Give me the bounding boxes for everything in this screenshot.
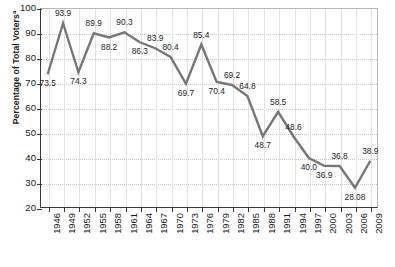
- x-tick-label: 1961: [129, 213, 138, 234]
- data-point-label: 28.08: [344, 193, 365, 201]
- turnout-polyline: [48, 23, 371, 188]
- y-axis-tick-labels: 1009080706050403020: [8, 0, 36, 267]
- data-point-label: 90.3: [116, 18, 132, 26]
- y-tick-mark: [37, 209, 42, 210]
- data-point-label: 85.4: [193, 31, 209, 39]
- y-tick-label: 30: [10, 178, 36, 188]
- x-tick-label: 2009: [374, 213, 383, 234]
- x-tick-label: 1964: [144, 213, 153, 234]
- data-point-label: 89.9: [86, 19, 102, 27]
- x-tick-label: 1994: [298, 213, 307, 234]
- x-tick-label: 1958: [113, 213, 122, 234]
- y-tick-label: 100: [10, 3, 36, 13]
- x-axis-tick-labels: 1946194919521955195819611964196719701973…: [40, 213, 378, 267]
- y-tick-label: 60: [10, 103, 36, 113]
- data-point-label: 86.3: [132, 47, 148, 55]
- data-point-label: 73.5: [40, 79, 56, 87]
- voter-turnout-line-chart: Percentage of Total Votersa 100908070605…: [0, 0, 395, 267]
- data-point-label: 69.7: [178, 89, 194, 97]
- x-tick-label: 1985: [251, 213, 260, 234]
- data-point-label: 38.9: [362, 147, 378, 155]
- data-point-label: 70.4: [209, 87, 225, 95]
- x-tick-label: 1997: [313, 213, 322, 234]
- x-tick-label: 2003: [344, 213, 353, 234]
- data-point-label: 58.5: [270, 98, 286, 106]
- data-point-label: 69.2: [224, 71, 240, 79]
- data-point-label: 48.7: [255, 141, 271, 149]
- y-tick-label: 20: [10, 203, 36, 213]
- x-tick-label: 1946: [52, 213, 61, 234]
- x-tick-label: 1991: [282, 213, 291, 234]
- data-point-label: 83.9: [147, 34, 163, 42]
- x-tick-label: 1982: [236, 213, 245, 234]
- data-point-label: 74.3: [70, 77, 86, 85]
- y-tick-label: 80: [10, 53, 36, 63]
- data-point-label: 36.9: [316, 171, 332, 179]
- x-tick-label: 1949: [67, 213, 76, 234]
- x-tick-label: 2000: [328, 213, 337, 234]
- x-tick-label: 1979: [221, 213, 230, 234]
- y-tick-label: 50: [10, 128, 36, 138]
- data-point-label: 48.6: [285, 123, 301, 131]
- x-tick-label: 1970: [175, 213, 184, 234]
- x-tick-label: 1967: [159, 213, 168, 234]
- y-tick-label: 90: [10, 28, 36, 38]
- data-point-label: 88.2: [101, 43, 117, 51]
- data-point-label: 40.0: [301, 163, 317, 171]
- x-tick-label: 1988: [267, 213, 276, 234]
- x-tick-label: 1955: [98, 213, 107, 234]
- data-point-label: 93.9: [55, 9, 71, 17]
- x-tick-label: 1973: [190, 213, 199, 234]
- data-point-label: 36.8: [331, 152, 347, 160]
- x-tick-label: 1952: [82, 213, 91, 234]
- y-tick-label: 40: [10, 153, 36, 163]
- data-point-label: 80.4: [162, 43, 178, 51]
- y-tick-label: 70: [10, 78, 36, 88]
- data-point-label: 64.8: [239, 82, 255, 90]
- x-tick-label: 2006: [359, 213, 368, 234]
- x-tick-label: 1976: [205, 213, 214, 234]
